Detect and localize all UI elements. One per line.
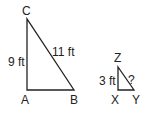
vertex-label-z: Z: [114, 51, 121, 65]
side-label-cb: 11 ft: [52, 45, 75, 59]
vertex-label-b: B: [70, 93, 78, 107]
vertex-label-x: X: [111, 93, 119, 107]
side-label-zy-unknown: ?: [128, 73, 135, 87]
vertex-label-y: Y: [132, 93, 140, 107]
vertex-label-c: C: [22, 4, 31, 18]
vertex-label-a: A: [21, 93, 29, 107]
side-label-ac: 9 ft: [8, 55, 25, 69]
side-label-xz: 3 ft: [99, 74, 116, 88]
similar-triangles-diagram: C A B 9 ft 11 ft Z X Y 3 ft ?: [0, 0, 143, 115]
